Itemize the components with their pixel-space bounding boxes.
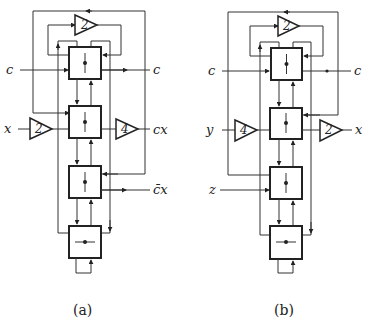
diagram-canvas: 2 c c x 2 4 cx [0,0,367,329]
input-c-label: c [208,63,216,78]
output-cx-label: cx [153,122,168,137]
input-z-label: z [208,182,216,197]
caption-a: (a) [73,302,92,318]
gain-input-label: 2 [34,122,43,136]
subfigure-b: 2 c c y 4 2 x [205,12,363,318]
output-c-label: c [153,62,161,77]
gain-top-label: 2 [80,18,89,32]
gain-output-label: 2 [324,123,333,137]
gain-input-label: 4 [239,123,248,137]
output-c-label: c [354,63,362,78]
output-x-label: x [355,122,363,137]
input-c-label: c [6,62,14,77]
input-x-label: x [4,121,12,136]
subfigure-a: 2 c c x 2 4 cx [4,11,168,318]
caption-b: (b) [274,302,294,318]
outer-feedback-wire [228,12,338,175]
outer-feedback-wire [33,11,145,174]
output-cbarx-label: c̄x [153,182,168,197]
gain-top-label: 2 [282,19,291,33]
gain-output-label: 4 [120,122,129,136]
input-y-label: y [205,122,214,137]
